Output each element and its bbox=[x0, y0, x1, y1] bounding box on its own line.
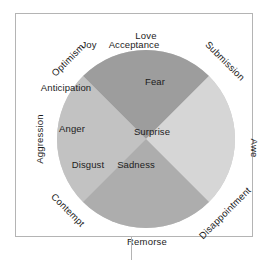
outer-label-love: Love bbox=[135, 31, 156, 41]
inner-label-disgust: Disgust bbox=[72, 160, 104, 170]
inner-label-anticipation: Anticipation bbox=[41, 83, 91, 93]
figure-frame: Joy Acceptance Anticipation Fear Anger S… bbox=[15, 13, 253, 237]
outer-label-remorse: Remorse bbox=[127, 237, 167, 247]
inner-label-anger: Anger bbox=[59, 124, 85, 134]
inner-label-sadness: Sadness bbox=[117, 160, 155, 170]
outer-label-awe: Awe bbox=[249, 139, 259, 158]
inner-label-surprise: Surprise bbox=[134, 127, 170, 137]
inner-label-acceptance: Acceptance bbox=[109, 40, 160, 50]
inner-label-fear: Fear bbox=[145, 77, 165, 87]
connector-line bbox=[131, 237, 132, 260]
outer-label-aggression: Aggression bbox=[35, 114, 45, 164]
